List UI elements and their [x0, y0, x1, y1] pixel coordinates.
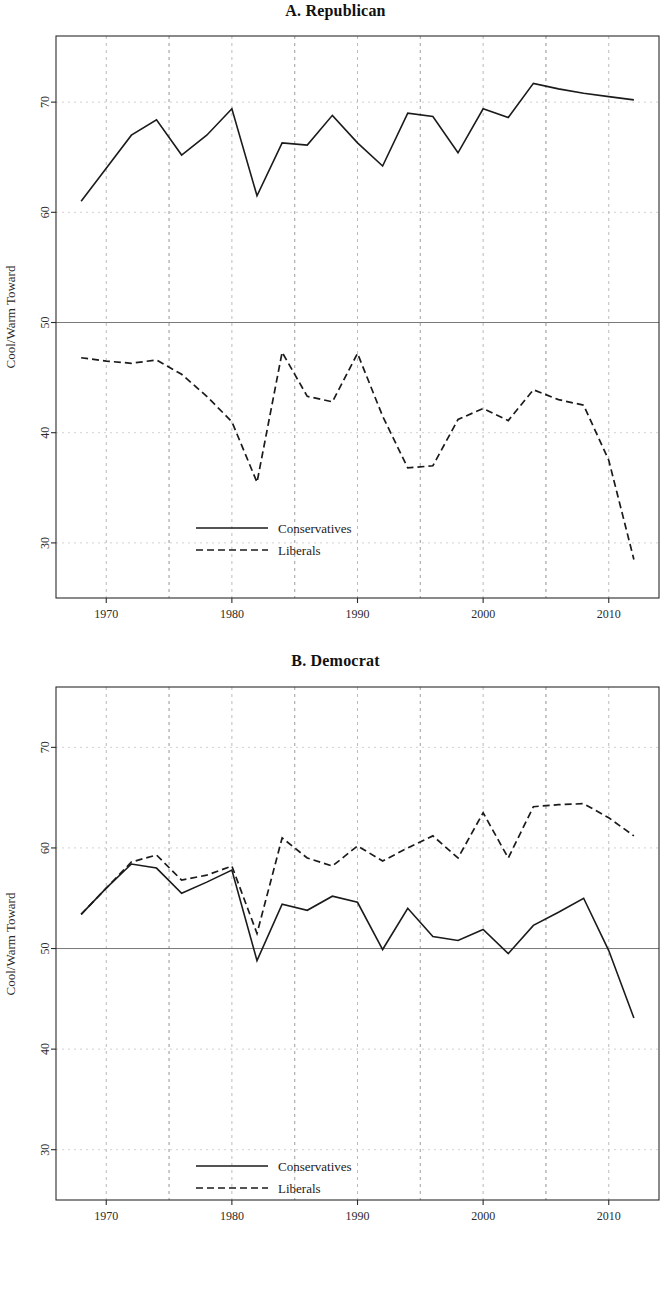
panel-a-gridlines [56, 36, 659, 598]
y-tick-label: 70 [38, 741, 52, 753]
x-tick-label: 1980 [220, 1209, 244, 1223]
y-tick-label: 60 [38, 842, 52, 854]
y-tick-label: 30 [38, 1144, 52, 1156]
panel-b-gridlines [56, 687, 659, 1200]
x-tick-label: 2000 [471, 607, 495, 621]
panel-b-tick-labels: 197019801990200020103040506070 [38, 741, 621, 1223]
y-tick-label: 40 [38, 1043, 52, 1055]
panel-a-plot: 197019801990200020103040506070 Conservat… [0, 0, 671, 650]
panel-b-plot: 197019801990200020103040506070 Conservat… [0, 650, 671, 1300]
x-tick-label: 1970 [94, 607, 118, 621]
legend-label-liberals-b: Liberals [278, 1181, 321, 1196]
legend-label-conservatives-a: Conservatives [278, 521, 352, 536]
y-tick-label: 70 [38, 96, 52, 108]
y-tick-label: 50 [38, 943, 52, 955]
y-tick-label: 30 [38, 537, 52, 549]
panel-b-legend: Conservatives Liberals [196, 1159, 352, 1196]
x-tick-label: 1990 [346, 607, 370, 621]
figure-root: A. Republican Cool/Warm Toward 197019801… [0, 0, 671, 1300]
x-tick-label: 1970 [94, 1209, 118, 1223]
legend-label-liberals-a: Liberals [278, 543, 321, 558]
x-tick-label: 2000 [471, 1209, 495, 1223]
legend-label-conservatives-b: Conservatives [278, 1159, 352, 1174]
y-tick-label: 40 [38, 427, 52, 439]
panel-b-axis-ticks [51, 747, 609, 1205]
x-tick-label: 2010 [597, 607, 621, 621]
panel-democrat: B. Democrat Cool/Warm Toward 19701980199… [0, 650, 671, 1300]
x-tick-label: 1990 [346, 1209, 370, 1223]
panel-republican: A. Republican Cool/Warm Toward 197019801… [0, 0, 671, 650]
x-tick-label: 2010 [597, 1209, 621, 1223]
panel-a-tick-labels: 197019801990200020103040506070 [38, 96, 621, 621]
y-tick-label: 60 [38, 206, 52, 218]
y-tick-label: 50 [38, 317, 52, 329]
x-tick-label: 1980 [220, 607, 244, 621]
panel-a-legend: Conservatives Liberals [196, 521, 352, 558]
